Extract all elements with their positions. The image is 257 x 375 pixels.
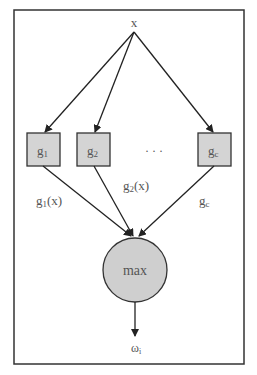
ellipsis: · · · [145,144,163,158]
g1-output-label: g1(x) [36,193,62,209]
g1-sub: 1 [44,149,49,159]
max-node: max [103,238,167,302]
classifier-diagram: x g1 g2 gc · · · g1(x) g2(x) gc max ωi [0,0,257,375]
gc-sub: c [215,149,219,159]
g2-output-label: g2(x) [123,178,149,194]
g2-sub: 2 [94,149,99,159]
function-box-g1: g1 [27,133,60,166]
max-label: max [123,263,147,278]
function-box-gc: gc [198,133,231,166]
function-box-g2: g2 [77,133,110,166]
input-x-label: x [131,15,138,30]
